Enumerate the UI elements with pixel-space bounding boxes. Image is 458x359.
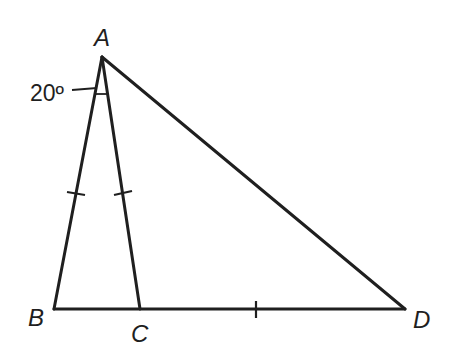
- triangle-diagram: 20º A B C D: [0, 0, 458, 359]
- label-b: B: [28, 304, 44, 331]
- vertex-labels: A B C D: [28, 24, 430, 347]
- label-c: C: [131, 320, 149, 347]
- label-a: A: [92, 24, 110, 51]
- angle-label: 20º: [30, 80, 65, 106]
- congruence-ticks: [67, 191, 256, 318]
- tick-ab: [67, 192, 85, 195]
- angle-leader-line: [72, 88, 97, 90]
- label-d: D: [413, 306, 430, 333]
- segment-ad: [102, 57, 405, 309]
